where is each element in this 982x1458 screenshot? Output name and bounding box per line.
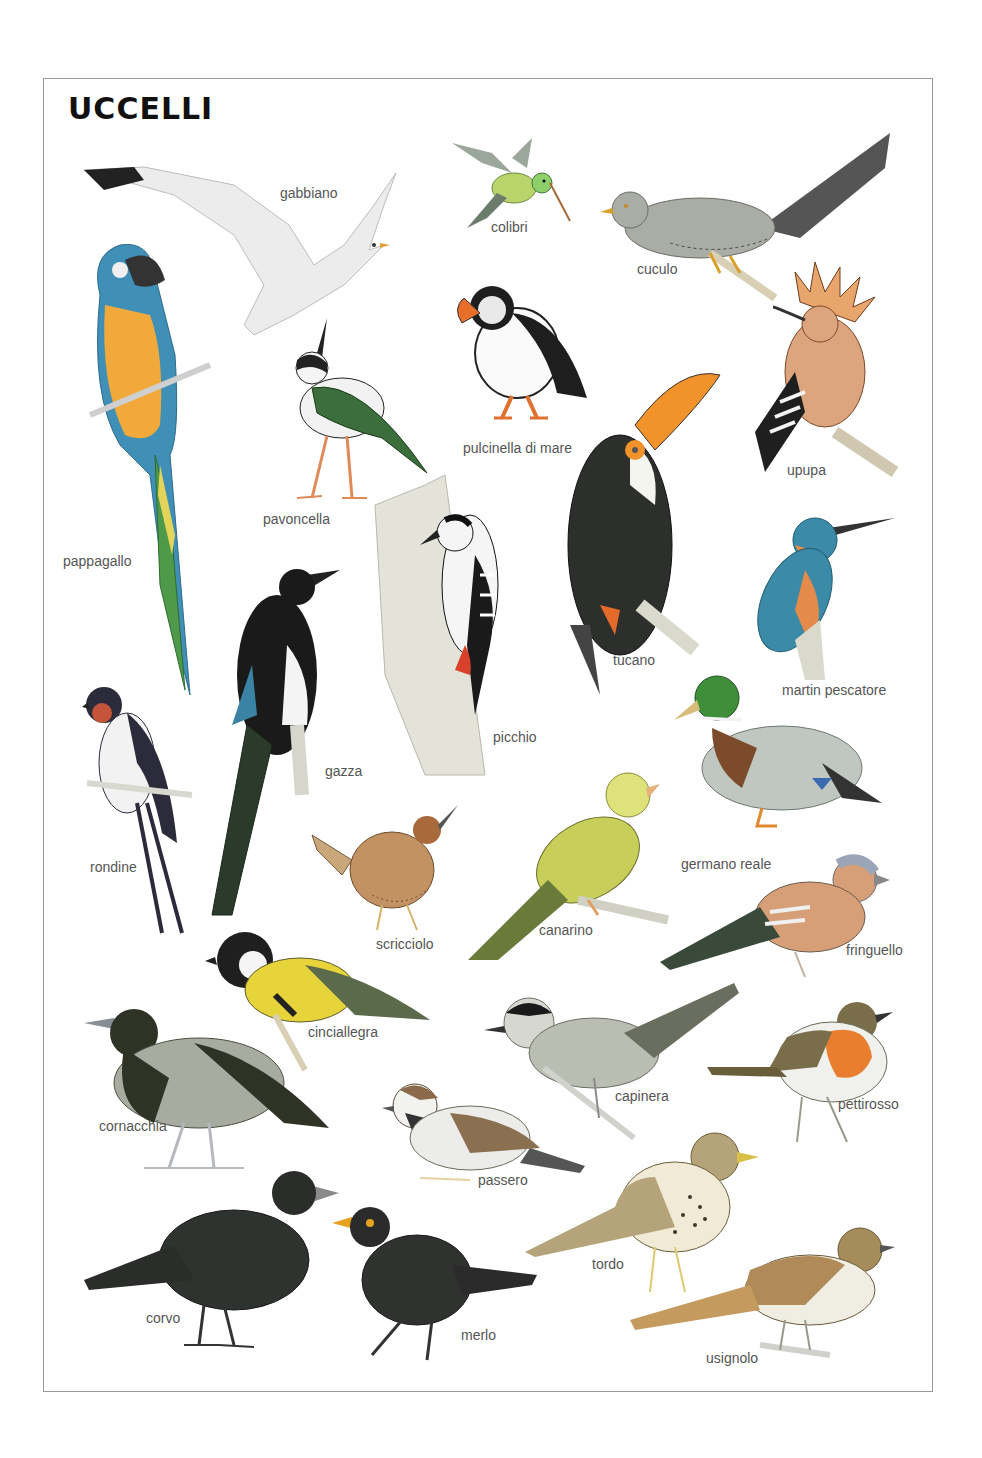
blackbird-illustration xyxy=(332,1205,537,1365)
toucan-illustration xyxy=(560,365,725,700)
label-pavoncella: pavoncella xyxy=(263,512,330,526)
swallow-illustration xyxy=(82,683,197,938)
label-usignolo: usignolo xyxy=(706,1351,758,1365)
label-pappagallo: pappagallo xyxy=(63,554,132,568)
label-germano-reale: germano reale xyxy=(681,857,771,871)
kingfisher-illustration xyxy=(735,500,900,680)
label-merlo: merlo xyxy=(461,1328,496,1342)
label-martin-pescatore: martin pescatore xyxy=(782,683,886,697)
label-cornacchia: cornacchia xyxy=(99,1119,167,1133)
label-canarino: canarino xyxy=(539,923,593,937)
hooded-crow-illustration xyxy=(84,1008,334,1178)
label-corvo: corvo xyxy=(146,1311,180,1325)
label-fringuello: fringuello xyxy=(846,943,903,957)
hummingbird-illustration xyxy=(452,133,577,233)
label-gabbiano: gabbiano xyxy=(280,186,338,200)
nightingale-illustration xyxy=(630,1225,895,1365)
label-pettirosso: pettirosso xyxy=(838,1097,899,1111)
label-colibri: colibri xyxy=(491,220,528,234)
page-title: UCCELLI xyxy=(68,94,213,124)
crow-illustration xyxy=(84,1165,339,1355)
wren-illustration xyxy=(312,800,462,935)
label-tordo: tordo xyxy=(592,1257,624,1271)
label-rondine: rondine xyxy=(90,860,137,874)
label-cinciallegra: cinciallegra xyxy=(308,1025,378,1039)
label-capinera: capinera xyxy=(615,1089,669,1103)
label-upupa: upupa xyxy=(787,463,826,477)
label-gazza: gazza xyxy=(325,764,362,778)
label-cuculo: cuculo xyxy=(637,262,677,276)
label-passero: passero xyxy=(478,1173,528,1187)
label-tucano: tucano xyxy=(613,653,655,667)
macaw-illustration xyxy=(80,235,215,700)
label-pulcinella: pulcinella di mare xyxy=(463,441,572,455)
label-picchio: picchio xyxy=(493,730,537,744)
robin-illustration xyxy=(707,997,892,1147)
label-scricciolo: scricciolo xyxy=(376,937,434,951)
hoopoe-illustration xyxy=(735,262,900,492)
